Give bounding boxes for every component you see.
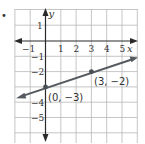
x-axis-label: x [127, 43, 133, 54]
point-3-neg2 [89, 69, 94, 74]
x-tick-label: 5 [120, 44, 126, 54]
y-tick-label: −5 [31, 113, 45, 123]
y-tick-label: −4 [31, 98, 45, 108]
problem-bullet: • [1, 10, 7, 21]
line-left-arrow-icon [16, 93, 26, 99]
x-tick-label: 4 [104, 44, 110, 54]
y-axis-down-arrow-icon [43, 134, 49, 142]
y-tick-label: −2 [31, 67, 44, 77]
point-0-neg3 [43, 85, 48, 90]
point-label-3-neg2: (3, −2) [94, 76, 129, 87]
coordinate-plane: • y x −1 1 2 3 4 5 [0, 0, 145, 144]
y-tick-label: 1 [37, 21, 43, 31]
point-label-0-neg3: (0, −3) [48, 92, 83, 103]
y-axis-label: y [48, 8, 55, 19]
y-tick-labels: 1 −1 −2 −4 −5 [31, 21, 45, 123]
y-tick-label: −1 [31, 52, 44, 62]
x-tick-label: 3 [89, 44, 95, 54]
x-tick-label: 2 [74, 44, 80, 54]
line-right-arrow-icon [130, 57, 138, 63]
x-tick-label: 1 [58, 44, 64, 54]
